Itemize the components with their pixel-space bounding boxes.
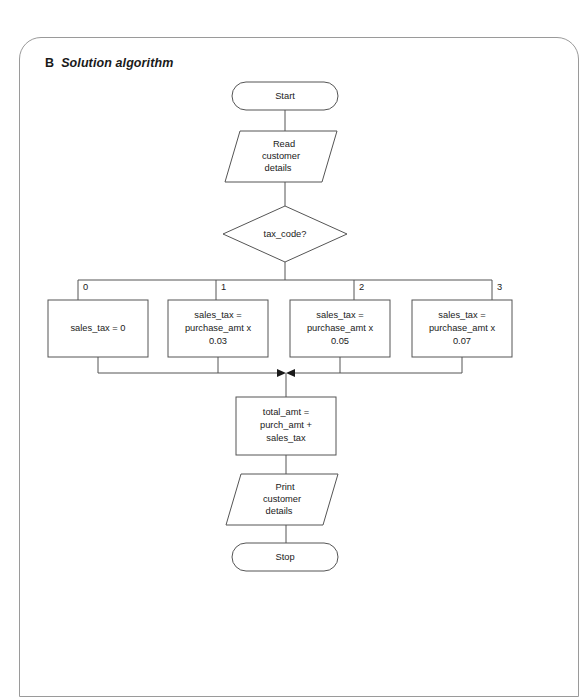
start-label: Start <box>275 91 295 101</box>
node-total-amt[interactable]: total_amt = purch_amt + sales_tax <box>236 397 336 455</box>
node-case-0[interactable]: sales_tax = 0 <box>48 300 148 357</box>
node-stop[interactable]: Stop <box>232 543 338 571</box>
read-label-line1: Read <box>273 139 295 149</box>
branch-label-2: 2 <box>359 282 364 292</box>
case1-label-line3: 0.03 <box>209 336 227 346</box>
total-label-line3: sales_tax <box>266 433 306 443</box>
case1-label-line1: sales_tax = <box>194 310 241 320</box>
node-case-2[interactable]: sales_tax = purchase_amt x 0.05 <box>290 300 390 357</box>
case3-label-line2: purchase_amt x <box>429 323 495 333</box>
print-label-line1: Print <box>275 482 295 492</box>
case3-label-line1: sales_tax = <box>438 310 485 320</box>
branch-label-0: 0 <box>83 282 88 292</box>
case1-label-line2: purchase_amt x <box>185 323 251 333</box>
print-label-line3: details <box>266 506 293 516</box>
merge-arrow-left-icon <box>277 369 286 377</box>
total-label-line2: purch_amt + <box>260 420 312 430</box>
case2-label-line3: 0.05 <box>331 336 349 346</box>
node-start[interactable]: Start <box>232 82 338 110</box>
merge-arrow-right-icon <box>286 369 295 377</box>
decision-label: tax_code? <box>264 229 307 239</box>
case2-label-line2: purchase_amt x <box>307 323 373 333</box>
read-label-line2: customer <box>262 151 300 161</box>
branch-label-3: 3 <box>497 282 502 292</box>
node-decision-tax-code[interactable]: tax_code? <box>223 206 347 262</box>
total-label-line1: total_amt = <box>263 407 309 417</box>
case2-label-line1: sales_tax = <box>316 310 363 320</box>
node-case-3[interactable]: sales_tax = purchase_amt x 0.07 <box>412 300 512 357</box>
case0-label-line1: sales_tax = 0 <box>70 323 125 333</box>
node-read-customer-details[interactable]: Read customer details <box>225 131 337 182</box>
stop-label: Stop <box>275 552 294 562</box>
node-case-1[interactable]: sales_tax = purchase_amt x 0.03 <box>168 300 268 357</box>
print-label-line2: customer <box>263 494 301 504</box>
read-label-line3: details <box>265 163 292 173</box>
case3-label-line3: 0.07 <box>453 336 471 346</box>
node-print-customer-details[interactable]: Print customer details <box>226 474 338 525</box>
branch-label-1: 1 <box>221 282 226 292</box>
